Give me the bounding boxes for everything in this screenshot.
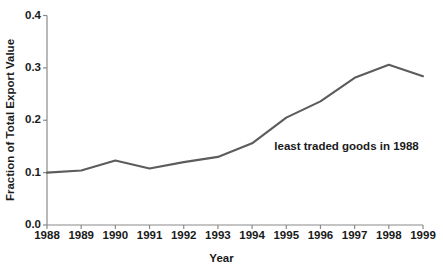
chart-figure: Fraction of Total Export Value Year 0.00… (0, 0, 443, 276)
chart-annotation: least traded goods in 1988 (274, 140, 418, 152)
x-tick-label: 1999 (403, 230, 443, 242)
y-tick-label: 0.4 (5, 10, 41, 22)
y-tick-label: 0.3 (5, 62, 41, 74)
data-series-line (47, 65, 423, 173)
axes-lines (47, 16, 423, 226)
y-tick-label: 0.1 (5, 167, 41, 179)
y-tick-label: 0.2 (5, 114, 41, 126)
x-axis-title-text: Year (0, 252, 443, 264)
